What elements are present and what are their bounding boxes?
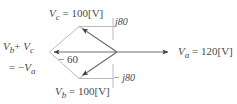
label-negva-symbol: V	[24, 61, 31, 73]
axis-tick-j80-negative-text: − j80	[113, 72, 135, 83]
label-vc: Vc = 100[V]	[49, 8, 103, 22]
label-va-symbol: V	[178, 45, 185, 57]
label-angle-text: − 60	[58, 53, 78, 65]
label-vb-value: = 100[V]	[69, 85, 110, 97]
label-vbvc-subscript-2: c	[30, 45, 34, 55]
label-vc-value: = 100[V]	[63, 7, 104, 19]
label-vbvc-symbol-1: V	[3, 40, 10, 52]
label-negative-va: = −Va	[9, 62, 35, 76]
axis-tick-j80-positive: j80	[115, 17, 128, 27]
label-negva-equals: = −	[9, 61, 24, 73]
label-va-subscript: a	[185, 50, 190, 60]
axis-tick-j80-negative: − j80	[113, 73, 135, 83]
label-vc-subscript: c	[56, 12, 60, 22]
label-vb-subscript: b	[62, 90, 67, 100]
phasor-vectors	[54, 29, 168, 76]
vector-vb	[83, 52, 118, 75]
label-vb-symbol: V	[55, 85, 62, 97]
axis-tick-j80-positive-text: j80	[115, 16, 128, 27]
phasor-diagram-figure: Vc = 100[V] Va = 120[V] Vb+ Vc = −Va Vb …	[0, 0, 237, 104]
vector-vc	[83, 29, 118, 52]
label-negva-subscript: a	[31, 66, 36, 76]
parallelogram-side-upper-left	[50, 27, 80, 53]
label-va-value: = 120[V]	[192, 45, 233, 57]
label-angle-minus-60: − 60	[58, 54, 78, 65]
label-va: Va = 120[V]	[178, 46, 233, 60]
label-vb: Vb = 100[V]	[55, 86, 110, 100]
label-vb-plus-vc: Vb+ Vc	[3, 41, 34, 55]
label-vbvc-plus: +	[14, 40, 20, 52]
label-vbvc-symbol-2: V	[23, 40, 30, 52]
label-vc-symbol: V	[49, 7, 56, 19]
